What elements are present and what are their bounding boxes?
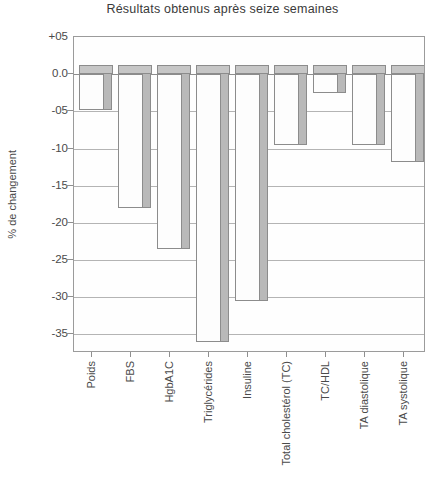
y-axis-tick-label: -25 [6, 253, 68, 265]
x-axis-tick-label: TA systolique [397, 361, 409, 426]
bar-top-face [157, 65, 191, 74]
y-axis-tick-mark [66, 222, 73, 223]
y-axis-tick-mark [66, 296, 73, 297]
bar-side-face [415, 65, 424, 162]
gridline [74, 334, 424, 335]
bar [274, 74, 299, 145]
x-axis-tick-label: TC/HDL [319, 361, 331, 401]
bar [196, 74, 221, 342]
bar-front-face [352, 74, 377, 145]
y-axis-tick-mark [66, 148, 73, 149]
y-axis-tick-mark [66, 73, 73, 74]
bar [79, 74, 104, 110]
x-axis-tick-label: FBS [124, 361, 136, 382]
x-axis-tick-label: Insuline [241, 361, 253, 399]
y-axis-tick-label: -35 [6, 327, 68, 339]
y-axis-tick-label: -20 [6, 216, 68, 228]
bar [391, 74, 416, 162]
bar-top-face [235, 65, 269, 74]
bar [235, 74, 260, 301]
bar-top-face [274, 65, 308, 74]
y-axis-tick-label: -15 [6, 179, 68, 191]
bar-front-face [79, 74, 104, 110]
y-axis-tick-mark [66, 259, 73, 260]
bar [352, 74, 377, 145]
y-axis-tick-mark [66, 110, 73, 111]
x-axis-tick-mark [130, 352, 131, 357]
bar-side-face [259, 65, 268, 301]
bar [313, 74, 338, 93]
bar-top-face [196, 65, 230, 74]
x-axis-tick-mark [169, 352, 170, 357]
x-axis-tick-labels: PoidsFBSHgbA1CTriglycéridesInsulineTotal… [0, 352, 445, 483]
x-axis-tick-label: TA diastolique [358, 361, 370, 429]
x-axis-tick-mark [403, 352, 404, 357]
bar-top-face [313, 65, 347, 74]
plot-area [73, 36, 425, 352]
bar-top-face [79, 65, 113, 74]
x-axis-tick-mark [364, 352, 365, 357]
bar [157, 74, 182, 249]
chart-title: Résultats obtenus après seize semaines [0, 2, 445, 16]
bar-side-face [181, 65, 190, 249]
bar-front-face [196, 74, 221, 342]
y-axis-tick-label: 0.0 [6, 67, 68, 79]
x-axis-tick-mark [208, 352, 209, 357]
y-axis-tick-label: -05 [6, 104, 68, 116]
bar-side-face [376, 65, 385, 145]
bar-front-face [391, 74, 416, 162]
bar-front-face [313, 74, 338, 93]
x-axis-tick-label: HgbA1C [163, 361, 175, 403]
x-axis-tick-label: Total cholestérol (TC) [280, 361, 292, 466]
x-axis-tick-mark [91, 352, 92, 357]
x-axis-tick-mark [325, 352, 326, 357]
x-axis-tick-label: Poids [85, 361, 97, 389]
y-axis-tick-label: -30 [6, 290, 68, 302]
bar-side-face [142, 65, 151, 208]
bar-front-face [118, 74, 143, 208]
bar-front-face [235, 74, 260, 301]
x-axis-tick-mark [286, 352, 287, 357]
y-axis-tick-mark [66, 185, 73, 186]
chart-figure: Résultats obtenus après seize semaines %… [0, 0, 445, 483]
bar-front-face [157, 74, 182, 249]
bar-top-face [118, 65, 152, 74]
y-axis-tick-mark [66, 333, 73, 334]
bar-top-face [391, 65, 425, 74]
bar [118, 74, 143, 208]
bar-front-face [274, 74, 299, 145]
bar-side-face [220, 65, 229, 342]
y-axis-tick-labels: +050.0-05-10-15-20-25-30-35 [0, 36, 68, 352]
y-axis-tick-label: -10 [6, 142, 68, 154]
x-axis-tick-label: Triglycérides [202, 361, 214, 423]
bar-side-face [298, 65, 307, 145]
y-axis-tick-label: +05 [6, 30, 68, 42]
bar-top-face [352, 65, 386, 74]
x-axis-tick-mark [247, 352, 248, 357]
